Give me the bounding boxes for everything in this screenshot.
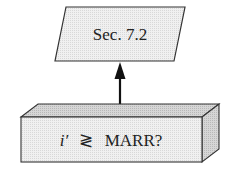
reference-node-label: Sec. 7.2: [93, 25, 147, 44]
box-top-face: [21, 104, 219, 117]
arrow-head-icon: [115, 62, 126, 79]
flow-diagram: Sec. 7.2 i′ ≷ MARR?: [0, 0, 239, 170]
rate-variable: i′: [60, 131, 69, 150]
comparison-operator: ≷: [79, 131, 93, 150]
marr-text: MARR?: [105, 131, 163, 150]
reference-node-sec-7-2: Sec. 7.2: [55, 7, 185, 61]
decision-box-node: i′ ≷ MARR?: [21, 104, 219, 162]
up-arrow-connector: [115, 62, 126, 110]
